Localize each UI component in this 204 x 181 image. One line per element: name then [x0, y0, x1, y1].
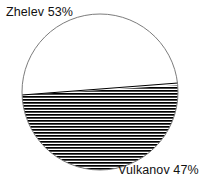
pie-chart-svg: [0, 0, 204, 181]
pie-label-vulkanov: Vulkanov 47%: [118, 163, 199, 177]
pie-label-zhelev: Zhelev 53%: [6, 5, 73, 19]
pie-chart: Zhelev 53% Vulkanov 47%: [0, 0, 204, 181]
